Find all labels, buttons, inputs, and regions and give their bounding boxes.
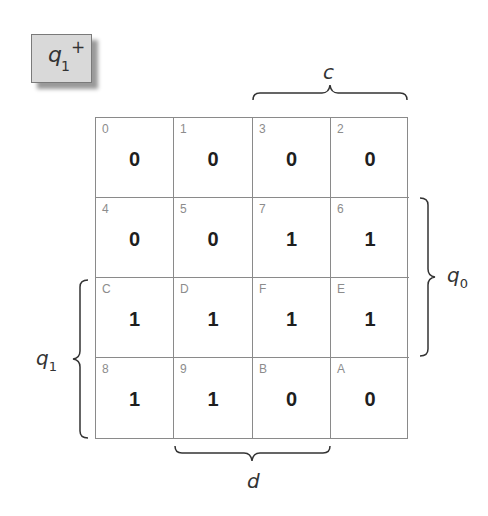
q1-label: q1 bbox=[36, 346, 57, 370]
cell-value: 1 bbox=[174, 308, 252, 331]
c-label: c bbox=[323, 60, 334, 84]
function-title: q1+ bbox=[48, 42, 85, 67]
cell-index: 8 bbox=[102, 362, 109, 376]
cell-value: 1 bbox=[253, 228, 330, 251]
kmap-cell: 40 bbox=[96, 198, 174, 278]
cell-index: 9 bbox=[180, 362, 187, 376]
cell-value: 0 bbox=[174, 228, 252, 251]
title-superscript: + bbox=[71, 37, 85, 57]
kmap-cell: 00 bbox=[96, 118, 174, 198]
kmap-cell: 81 bbox=[96, 358, 174, 439]
q0-label: q0 bbox=[447, 263, 468, 287]
cell-index: 3 bbox=[259, 122, 266, 136]
kmap-cell: D1 bbox=[174, 278, 253, 358]
cell-value: 1 bbox=[331, 228, 409, 251]
cell-index: 6 bbox=[337, 202, 344, 216]
kmap-cell: 20 bbox=[331, 118, 409, 198]
d-brace bbox=[174, 444, 331, 464]
d-label: d bbox=[247, 469, 260, 493]
cell-index: E bbox=[337, 282, 345, 296]
kmap-cell: 61 bbox=[331, 198, 409, 278]
function-title-box: q1+ bbox=[31, 34, 92, 83]
cell-value: 0 bbox=[96, 148, 173, 171]
cell-index: D bbox=[180, 282, 189, 296]
q0-subscript: 0 bbox=[460, 276, 468, 291]
kmap-cell: A0 bbox=[331, 358, 409, 439]
cell-index: C bbox=[102, 282, 111, 296]
cell-value: 0 bbox=[253, 388, 330, 411]
cell-value: 1 bbox=[96, 388, 173, 411]
title-var: q bbox=[48, 42, 62, 67]
cell-index: 7 bbox=[259, 202, 266, 216]
q1-brace bbox=[70, 279, 90, 439]
cell-value: 1 bbox=[96, 308, 173, 331]
cell-value: 0 bbox=[331, 388, 409, 411]
cell-value: 1 bbox=[331, 308, 409, 331]
cell-index: B bbox=[259, 362, 267, 376]
cell-value: 0 bbox=[253, 148, 330, 171]
kmap-cell: 10 bbox=[174, 118, 253, 198]
kmap-cell: C1 bbox=[96, 278, 174, 358]
cell-index: 5 bbox=[180, 202, 187, 216]
kmap-cell: E1 bbox=[331, 278, 409, 358]
q0-brace bbox=[418, 197, 438, 357]
kmap-cell: 50 bbox=[174, 198, 253, 278]
c-brace bbox=[252, 82, 408, 102]
cell-index: 2 bbox=[337, 122, 344, 136]
cell-index: 4 bbox=[102, 202, 109, 216]
karnaugh-map: 00 10 30 20 40 50 71 61 C1 D1 F1 E1 81 9… bbox=[95, 117, 408, 439]
kmap-cell: B0 bbox=[253, 358, 331, 439]
cell-value: 1 bbox=[174, 388, 252, 411]
kmap-cell: 91 bbox=[174, 358, 253, 439]
cell-index: 0 bbox=[102, 122, 109, 136]
kmap-cell: 71 bbox=[253, 198, 331, 278]
cell-index: A bbox=[337, 362, 345, 376]
cell-index: 1 bbox=[180, 122, 187, 136]
cell-value: 0 bbox=[174, 148, 252, 171]
kmap-cell: F1 bbox=[253, 278, 331, 358]
cell-index: F bbox=[259, 282, 266, 296]
cell-value: 0 bbox=[96, 228, 173, 251]
cell-value: 1 bbox=[253, 308, 330, 331]
cell-value: 0 bbox=[331, 148, 409, 171]
q0-var: q bbox=[447, 263, 460, 287]
title-subscript: 1 bbox=[61, 58, 70, 74]
q1-var: q bbox=[36, 346, 49, 370]
kmap-cell: 30 bbox=[253, 118, 331, 198]
q1-subscript: 1 bbox=[49, 359, 57, 374]
